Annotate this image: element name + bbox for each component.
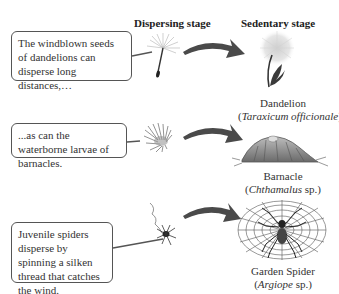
barnacle-common-name: Barnacle xyxy=(238,170,328,183)
dandelion-caption: Dandelion (Taraxicum officionale) xyxy=(238,97,328,123)
arrow-icon-3 xyxy=(183,203,241,222)
dandelion-scientific-name: (Taraxicum officionale) xyxy=(238,110,328,123)
garden-spider-common-name: Garden Spider xyxy=(238,265,328,278)
barnacle-larva-icon xyxy=(144,123,172,152)
arrow-icon-2 xyxy=(183,124,243,143)
dandelion-common-name: Dandelion xyxy=(238,97,328,110)
dandelion-seed-icon xyxy=(147,33,180,78)
illustration-layer xyxy=(0,0,339,294)
garden-spider-caption: Garden Spider (Argiope sp.) xyxy=(238,265,328,291)
barnacle-caption: Barnacle (Chthamalus sp.) xyxy=(238,170,328,196)
connector-line-3 xyxy=(113,239,163,248)
connector-line-2 xyxy=(127,141,140,142)
garden-spider-web-icon xyxy=(238,200,326,260)
garden-spider-scientific-name: (Argiope sp.) xyxy=(238,278,328,291)
arrow-icon-1 xyxy=(183,39,245,58)
juvenile-spider-icon xyxy=(150,203,176,245)
connector-line-1 xyxy=(132,52,152,56)
barnacle-scientific-name: (Chthamalus sp.) xyxy=(238,183,328,196)
barnacle-adult-icon xyxy=(232,136,328,166)
dandelion-plant-icon xyxy=(259,30,295,87)
